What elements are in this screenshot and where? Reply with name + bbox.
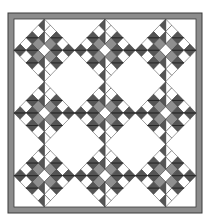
quilt-image xyxy=(0,0,210,219)
quilt-blocks xyxy=(14,19,196,207)
